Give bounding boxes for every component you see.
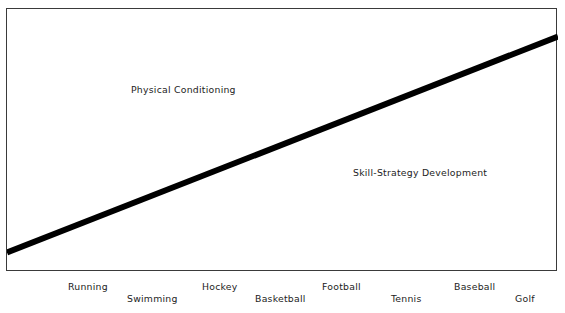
sport-axis-labels: RunningSwimmingHockeyBasketballFootballT…	[0, 271, 565, 313]
sport-label-basketball: Basketball	[255, 294, 306, 303]
diagonal-divider-line	[7, 9, 558, 272]
sport-label-swimming: Swimming	[127, 294, 178, 303]
region-label-skill-strategy: Skill-Strategy Development	[353, 168, 487, 177]
sport-label-golf: Golf	[515, 294, 535, 303]
sport-label-tennis: Tennis	[391, 294, 422, 303]
plot-frame: Physical Conditioning Skill-Strategy Dev…	[6, 8, 557, 271]
region-label-physical-conditioning: Physical Conditioning	[131, 85, 236, 94]
sports-conditioning-skill-figure: Physical Conditioning Skill-Strategy Dev…	[0, 0, 565, 313]
sport-label-hockey: Hockey	[202, 282, 238, 291]
sport-label-baseball: Baseball	[454, 282, 495, 291]
sport-label-football: Football	[322, 282, 361, 291]
sport-label-running: Running	[68, 282, 108, 291]
